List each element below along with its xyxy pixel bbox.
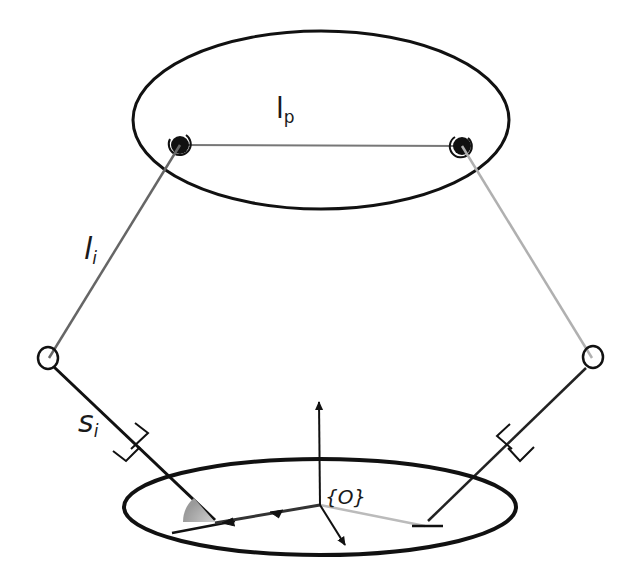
label-slider: si [78, 407, 98, 440]
diagram-canvas: lp li si {O} [0, 0, 638, 588]
top-platform-ellipse [133, 31, 509, 209]
robot-schematic [0, 0, 638, 588]
label-leg-length: li [84, 234, 97, 267]
label-platform-length: lp [276, 95, 295, 126]
z-axis-arrow [319, 402, 320, 505]
prismatic-guide-right [497, 424, 534, 461]
platform-link-lp [180, 145, 462, 146]
slider-left-si [54, 367, 215, 520]
y-axis-arrow [320, 505, 345, 545]
passive-joint-right [583, 346, 603, 368]
joint-angle-marker [183, 498, 215, 522]
passive-joint-left [38, 347, 58, 369]
leg-right-li [462, 146, 592, 358]
leg-left-li [49, 145, 180, 358]
label-origin-frame: {O} [325, 487, 366, 507]
